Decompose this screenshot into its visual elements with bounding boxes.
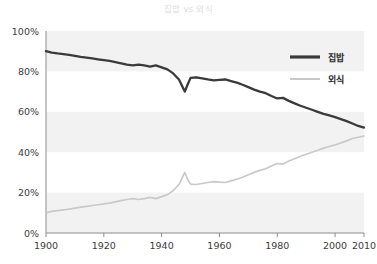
x-tick-label: 2000	[323, 240, 347, 251]
chart-plot-area: 0%20%40%60%80%100% 190019201940196019802…	[0, 0, 377, 264]
y-tick-label: 20%	[18, 187, 39, 198]
x-tick-label: 2010	[352, 240, 376, 251]
background-bands	[46, 31, 364, 233]
x-tick-label: 1920	[92, 240, 116, 251]
y-tick-label: 100%	[12, 26, 39, 37]
x-tick-label: 1960	[207, 240, 231, 251]
y-axis-tick-labels: 0%20%40%60%80%100%	[12, 26, 39, 239]
legend-label-외식: 외식	[328, 74, 344, 85]
y-tick-label: 40%	[18, 147, 39, 158]
y-tick-label: 0%	[24, 228, 39, 239]
y-tick-label: 80%	[18, 66, 39, 77]
legend-label-집밥: 집밥	[328, 52, 345, 63]
x-tick-label: 1980	[265, 240, 289, 251]
y-tick-label: 60%	[18, 106, 39, 117]
x-tick-marks	[46, 233, 364, 237]
x-tick-label: 1940	[150, 240, 174, 251]
x-tick-label: 1900	[34, 240, 58, 251]
x-axis-tick-labels: 1900192019401960198020002010	[34, 240, 376, 251]
chart-container: 집밥 vs 외식 0%20%40%60%80%100% 190019201940…	[0, 0, 377, 264]
